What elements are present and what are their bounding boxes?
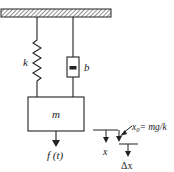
x0-label: x0= mg/k	[131, 122, 168, 133]
force-arrowhead	[52, 140, 60, 147]
x0-arrowhead	[116, 136, 122, 142]
force-label: f (t)	[47, 149, 64, 162]
x-label: x	[102, 146, 108, 157]
damper-piston	[70, 66, 77, 70]
mass-label: m	[52, 108, 60, 120]
spring-mass-damper-diagram: k b m f (t) x x0= mg/k Δx	[0, 0, 174, 172]
spring-label: k	[23, 56, 29, 68]
spring	[33, 17, 41, 97]
damper-label: b	[84, 61, 90, 73]
x-arrowhead	[103, 137, 109, 143]
diagram-svg: k b m f (t) x x0= mg/k Δx	[0, 0, 174, 172]
dx-arrowhead	[125, 151, 131, 157]
fixed-ceiling	[1, 9, 111, 17]
dx-label: Δx	[121, 160, 132, 171]
